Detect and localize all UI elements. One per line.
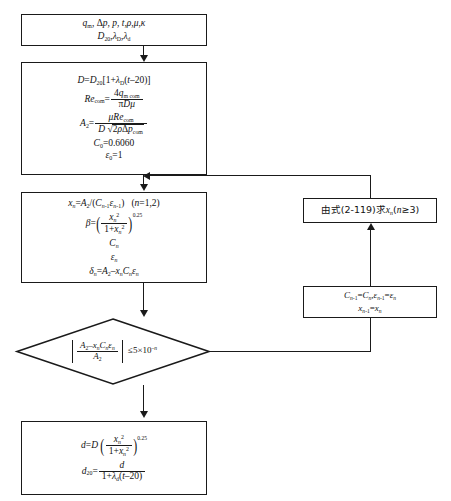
- iterate-line-xn: xn=A2/(Cn-1εn-1) (n=1,2): [68, 198, 159, 209]
- iterate-line-beta: β=(xn21+xn2)0.25: [86, 212, 143, 235]
- init-line-Re: Recom=4qm comπDμ: [84, 89, 143, 110]
- edge-iterate-to-test-arrow-icon: [140, 310, 148, 317]
- edge-feedback-horizontal: [150, 175, 370, 176]
- node-start-inputs[interactable]: qm, Δp, p, t,ρ,μ,κ D20,λD,λd: [21, 14, 207, 46]
- edge-update-to-solve: [370, 230, 371, 286]
- node-iterate-n12[interactable]: xn=A2/(Cn-1εn-1) (n=1,2) β=(xn21+xn2)0.2…: [21, 192, 207, 283]
- edge-iterate-to-test: [143, 283, 144, 311]
- node-solve-eq-2-119[interactable]: 由式(2-119)求xn(n≥3): [303, 198, 437, 223]
- inputs-line-1: qm, Δp, p, t,ρ,μ,κ: [83, 18, 146, 29]
- edge-inputs-to-init-arrow-icon: [140, 55, 148, 62]
- flowchart-canvas: qm, Δp, p, t,ρ,μ,κ D20,λD,λd D=D20[1+λD(…: [0, 0, 451, 501]
- edge-init-to-iterate-arrow-icon: [140, 184, 148, 191]
- edge-update-to-solve-arrow-icon: [367, 223, 375, 230]
- edge-test-right-horizontal: [209, 351, 370, 352]
- inputs-line-2: D20,λD,λd: [98, 31, 131, 42]
- iterate-line-epsn: εn: [111, 252, 118, 263]
- init-line-eps0: ε0=1: [106, 150, 123, 161]
- result-line-d20: d20=d1+λd(t–20): [82, 461, 146, 482]
- test-condition-label: A2–xnCnεnA2 ≤5×10–n: [69, 340, 157, 362]
- node-update-vars[interactable]: Cn-1=Cn,εn-1=εn xn-1=xn: [303, 286, 437, 318]
- edge-test-right-vertical: [370, 315, 371, 352]
- init-line-C0: C0=0.6060: [94, 138, 135, 149]
- result-line-d: d=D (xn21+xn2)0.25: [81, 434, 147, 457]
- update-line-C-eps: Cn-1=Cn,εn-1=εn: [344, 290, 396, 301]
- init-line-D: D=D20[1+λD(t–20)]: [77, 75, 150, 86]
- edge-solve-up: [370, 175, 371, 199]
- node-result-diameter[interactable]: d=D (xn21+xn2)0.25 d20=d1+λd(t–20): [21, 421, 207, 495]
- node-init-compute[interactable]: D=D20[1+λD(t–20)] Recom=4qm comπDμ A2=μR…: [21, 62, 207, 175]
- edge-feedback-arrow-icon: [143, 172, 150, 180]
- node-convergence-test[interactable]: A2–xnCnεnA2 ≤5×10–n: [16, 318, 210, 385]
- edge-test-to-result: [143, 385, 144, 411]
- init-line-A2: A2=μRecomD √2ρΔpcom: [80, 113, 148, 135]
- iterate-line-Cn: Cn: [109, 238, 118, 249]
- edge-test-to-result-arrow-icon: [140, 411, 148, 418]
- update-line-x: xn-1=xn: [358, 303, 381, 314]
- iterate-line-deltan: δn=A2–xnCnεn: [89, 266, 138, 277]
- solve-eq-label: 由式(2-119)求xn(n≥3): [321, 205, 419, 216]
